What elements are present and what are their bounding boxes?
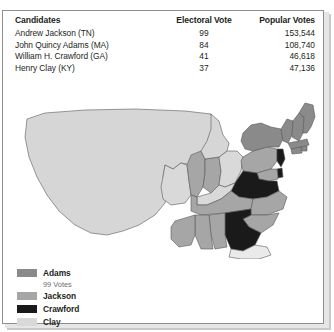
cell-popular: 153,544: [243, 28, 315, 40]
legend-item-crawford: Crawford: [17, 303, 167, 315]
us-election-map: [15, 99, 317, 259]
legend-label-crawford: Crawford: [43, 304, 79, 314]
election-figure: Candidates Electoral Vote Popular Votes …: [0, 0, 334, 332]
table-row: Andrew Jackson (TN) 99 153,544: [15, 28, 315, 40]
legend-label-clay: Clay: [43, 317, 61, 327]
state-new-jersey: [277, 149, 285, 167]
cell-candidate: Henry Clay (KY): [15, 63, 165, 75]
state-missouri: [161, 163, 191, 205]
cell-electoral: 84: [165, 40, 243, 52]
map-legend: Adams 99 Votes Jackson Crawford Clay: [17, 267, 167, 329]
table-row: John Quincy Adams (MA) 84 108,740: [15, 40, 315, 52]
legend-label-adams: Adams: [43, 268, 71, 278]
cell-electoral: 41: [165, 51, 243, 63]
election-results-table: Candidates Electoral Vote Popular Votes …: [15, 15, 315, 74]
column-header-candidates: Candidates: [15, 15, 165, 28]
legend-swatch-jackson: [17, 292, 37, 300]
table-header-row: Candidates Electoral Vote Popular Votes: [15, 15, 315, 28]
cell-popular: 108,740: [243, 40, 315, 52]
legend-swatch-crawford: [17, 305, 37, 313]
state-rhode-island: [301, 146, 307, 151]
legend-item-adams: Adams: [17, 267, 167, 279]
table-row: Henry Clay (KY) 37 47,136: [15, 63, 315, 75]
cell-popular: 47,136: [243, 63, 315, 75]
legend-swatch-adams: [17, 269, 37, 277]
legend-label-jackson: Jackson: [43, 291, 76, 301]
column-header-electoral-vote: Electoral Vote: [165, 15, 243, 28]
cell-candidate: John Quincy Adams (MA): [15, 40, 165, 52]
legend-swatch-clay: [17, 318, 37, 326]
state-louisiana: [171, 215, 195, 247]
legend-item-jackson: Jackson: [17, 290, 167, 302]
state-new-hampshire: [292, 113, 304, 141]
cell-electoral: 37: [165, 63, 243, 75]
figure-frame: Candidates Electoral Vote Popular Votes …: [2, 10, 324, 324]
cell-candidate: William H. Crawford (GA): [15, 51, 165, 63]
state-new-york: [241, 123, 283, 151]
cell-electoral: 99: [165, 28, 243, 40]
cell-candidate: Andrew Jackson (TN): [15, 28, 165, 40]
state-vermont: [281, 119, 293, 143]
legend-sublabel-adams-votes: 99 Votes: [43, 280, 167, 290]
legend-item-clay: Clay: [17, 316, 167, 328]
table-row: William H. Crawford (GA) 41 46,618: [15, 51, 315, 63]
column-header-popular-votes: Popular Votes: [243, 15, 315, 28]
cell-popular: 46,618: [243, 51, 315, 63]
